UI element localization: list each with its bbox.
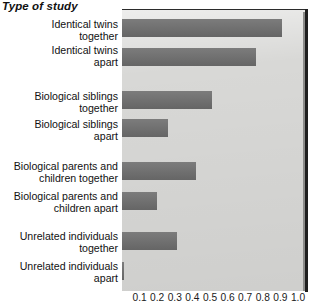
x-axis-tick-labels: 0.10.20.30.40.50.60.70.80.91.0 bbox=[122, 292, 305, 305]
category-label: Biological parents andchildren apart bbox=[0, 190, 118, 214]
category-label-line1: Identical twins bbox=[0, 44, 118, 56]
category-label-line1: Unrelated individuals bbox=[0, 230, 118, 242]
bar bbox=[122, 192, 157, 210]
category-label-line2: together bbox=[0, 30, 118, 42]
page-title: Type of study bbox=[2, 0, 78, 12]
category-label-line2: apart bbox=[0, 130, 118, 142]
category-label-line1: Biological parents and bbox=[0, 160, 118, 172]
category-label: Biological parents andchildren together bbox=[0, 160, 118, 184]
category-label-line1: Biological siblings bbox=[0, 90, 118, 102]
category-label-line2: together bbox=[0, 242, 118, 254]
bar bbox=[122, 162, 196, 180]
bar bbox=[122, 119, 168, 137]
category-label-line1: Identical twins bbox=[0, 18, 118, 30]
category-label-line2: children apart bbox=[0, 202, 118, 214]
category-label: Identical twinsapart bbox=[0, 44, 118, 68]
bar bbox=[122, 19, 282, 37]
plot-frame-right-edge bbox=[305, 9, 308, 292]
category-label-line2: apart bbox=[0, 272, 118, 284]
category-label: Unrelated individualsapart bbox=[0, 260, 118, 284]
bar bbox=[122, 262, 124, 280]
bar bbox=[122, 48, 256, 66]
category-label-line1: Unrelated individuals bbox=[0, 260, 118, 272]
bar bbox=[122, 91, 212, 109]
category-label: Biological siblingstogether bbox=[0, 90, 118, 114]
category-label-line1: Biological siblings bbox=[0, 118, 118, 130]
bar bbox=[122, 232, 177, 250]
category-label: Biological siblingsapart bbox=[0, 118, 118, 142]
x-axis-tick-label: 1.0 bbox=[287, 292, 309, 304]
category-label: Identical twinstogether bbox=[0, 18, 118, 42]
category-label-line2: together bbox=[0, 102, 118, 114]
category-label: Unrelated individualstogether bbox=[0, 230, 118, 254]
category-label-line1: Biological parents and bbox=[0, 190, 118, 202]
category-label-line2: children together bbox=[0, 172, 118, 184]
category-label-line2: apart bbox=[0, 56, 118, 68]
